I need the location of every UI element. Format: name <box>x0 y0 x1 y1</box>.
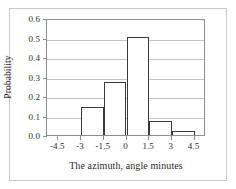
x-axis-tick-label: -4.5 <box>50 142 65 151</box>
y-axis-title: Probability <box>3 55 13 98</box>
y-axis-tick-label: 0.6 <box>6 15 40 24</box>
y-axis-tick-mark <box>43 58 47 59</box>
histogram-bar <box>104 82 127 135</box>
plot-area <box>46 19 205 136</box>
y-axis-tick-mark <box>43 39 47 40</box>
y-axis-tick-label: 0.0 <box>6 132 40 141</box>
y-axis-tick-label: 0.1 <box>6 112 40 121</box>
y-axis-tick-mark <box>43 97 47 98</box>
y-axis-tick-mark <box>43 78 47 79</box>
y-axis-tick-label: 0.5 <box>6 34 40 43</box>
x-axis-tick-label: -3 <box>76 142 84 151</box>
histogram-bar <box>172 131 195 135</box>
gridline <box>47 79 204 80</box>
x-axis-tick-label: -1.5 <box>95 142 110 151</box>
y-axis-tick-mark <box>43 136 47 137</box>
x-axis-title: The azimuth, angle minutes <box>69 160 183 171</box>
x-axis-tick-label: 0 <box>123 142 128 151</box>
x-axis-tick-mark <box>126 136 127 140</box>
x-axis-tick-mark <box>194 136 195 140</box>
x-axis-tick-mark <box>103 136 104 140</box>
histogram-bar <box>149 121 172 135</box>
y-axis-tick-mark <box>43 19 47 20</box>
histogram-bar <box>81 107 104 135</box>
x-axis-tick-label: 1.5 <box>142 142 154 151</box>
x-axis-tick-mark <box>148 136 149 140</box>
x-axis-tick-mark <box>171 136 172 140</box>
histogram-figure: 0.00.10.20.30.40.50.6 -4.5-3-1.501.534.5… <box>0 0 236 189</box>
histogram-bar <box>127 37 150 135</box>
gridline <box>47 59 204 60</box>
x-axis-tick-mark <box>80 136 81 140</box>
x-axis-tick-label: 4.5 <box>188 142 200 151</box>
gridline <box>47 40 204 41</box>
x-axis-tick-mark <box>57 136 58 140</box>
x-axis-tick-label: 3 <box>169 142 174 151</box>
y-axis-tick-mark <box>43 117 47 118</box>
